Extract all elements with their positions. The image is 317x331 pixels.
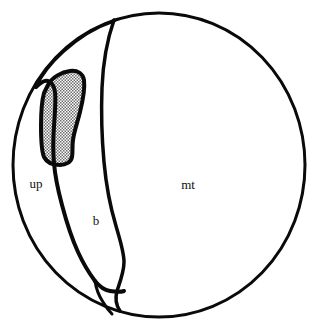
- region-label-up: up: [30, 176, 43, 191]
- figure-container: up b mt: [0, 0, 317, 331]
- region-label-mt: mt: [181, 177, 195, 192]
- region-label-b: b: [93, 213, 100, 228]
- diagram-canvas: up b mt: [0, 0, 317, 331]
